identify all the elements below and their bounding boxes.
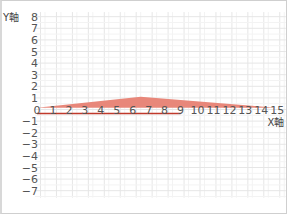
- x-tick-label: 12: [222, 104, 236, 117]
- x-tick-label: 15: [270, 104, 284, 117]
- x-tick-label: 11: [206, 104, 220, 117]
- y-tick-label: 1: [31, 92, 38, 105]
- x-tick-label: 5: [113, 104, 120, 117]
- x-axis-label: X軸: [268, 116, 285, 128]
- coordinate-chart: 012345678910111213141587654321−1−2−3−4−5…: [0, 0, 288, 215]
- x-tick-label: 14: [254, 104, 268, 117]
- x-tick-label: 9: [177, 104, 184, 117]
- x-tick-label: 7: [145, 104, 152, 117]
- y-axis-label: Y軸: [2, 11, 19, 23]
- x-tick-label: 8: [161, 104, 168, 117]
- x-tick-label: 3: [81, 104, 88, 117]
- x-tick-label: 13: [238, 104, 252, 117]
- x-tick-label: 2: [65, 104, 72, 117]
- y-tick-label: −7: [22, 185, 38, 198]
- x-tick-label: 10: [191, 104, 205, 117]
- x-tick-label: 6: [129, 104, 136, 117]
- x-tick-label: 1: [49, 104, 56, 117]
- x-tick-label: 4: [97, 104, 104, 117]
